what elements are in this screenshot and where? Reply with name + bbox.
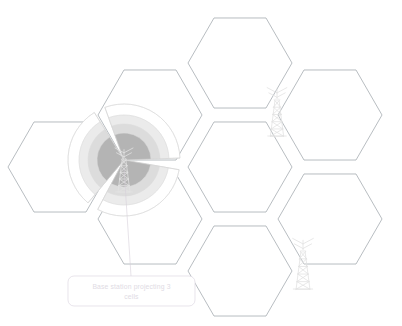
hexagon-grid [8, 18, 382, 316]
cell-center[interactable] [188, 122, 292, 212]
cell-top-center[interactable] [188, 18, 292, 108]
cell-bottom-center[interactable] [188, 226, 292, 316]
callout-group[interactable]: Base station projecting 3 cells [68, 276, 195, 306]
cell-bottom-right[interactable] [278, 174, 382, 264]
callout-label-line-1: Base station projecting 3 [92, 283, 170, 291]
diagram-canvas: Base station projecting 3 cells [0, 0, 402, 326]
cellular-hexagon-diagram: Base station projecting 3 cells [0, 0, 402, 326]
callout-label-line-2: cells [124, 293, 139, 300]
callout-box[interactable] [68, 276, 195, 306]
cell-top-right[interactable] [278, 70, 382, 160]
